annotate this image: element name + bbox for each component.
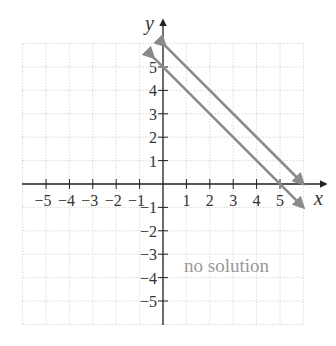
chart: −5−4−3−2−112345−5−4−3−2−112345 yxno solu… — [0, 0, 336, 346]
y-tick-label: −3 — [140, 246, 157, 263]
y-tick-label: −2 — [140, 223, 157, 240]
x-tick-label: 4 — [253, 192, 261, 209]
x-tick-label: 1 — [182, 192, 190, 209]
x-tick-label: −5 — [34, 192, 51, 209]
y-tick-label: 2 — [149, 129, 157, 146]
x-tick-label: −3 — [81, 192, 98, 209]
x-tick-label: 3 — [229, 192, 237, 209]
annotation-no-solution: no solution — [184, 255, 269, 276]
y-axis-label: y — [143, 12, 154, 35]
series — [154, 46, 304, 207]
y-tick-label: −5 — [140, 293, 157, 310]
series-line — [154, 58, 304, 208]
series-line — [165, 46, 303, 184]
x-axis-label: x — [313, 187, 323, 209]
y-tick-label: 3 — [149, 106, 157, 123]
x-tick-label: 2 — [206, 192, 214, 209]
y-tick-label: 1 — [149, 153, 157, 170]
x-tick-label: 5 — [276, 192, 284, 209]
y-tick-label: −1 — [140, 199, 157, 216]
y-tick-label: −4 — [140, 270, 157, 287]
y-tick-label: 4 — [149, 82, 157, 99]
x-tick-label: −4 — [58, 192, 75, 209]
x-tick-label: −2 — [105, 192, 122, 209]
axes — [22, 20, 326, 325]
